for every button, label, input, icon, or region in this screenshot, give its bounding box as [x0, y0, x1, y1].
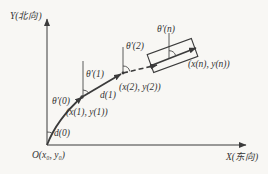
angle-arc-thetan — [169, 51, 176, 56]
theta0-label: θ′(0) — [52, 96, 70, 107]
d0-label: d(0) — [54, 128, 70, 139]
point-marker-p2 — [122, 72, 125, 75]
origin-label: O(x₀, y₀) — [32, 150, 65, 161]
y-axis-label: Y(北向) — [10, 11, 42, 22]
theta2-label: θ′(2) — [126, 41, 144, 52]
point-marker-p1 — [80, 95, 83, 98]
d1-label: d(1) — [100, 90, 116, 101]
theta1-label: θ′(1) — [86, 69, 104, 80]
diagram-canvas: Y(北向) X(东向) O(x₀, y₀) θ′(0) θ′(1) θ′(2) … — [0, 0, 268, 174]
angle-arc-theta0 — [47, 132, 52, 133]
thetan-label: θ′(n) — [157, 24, 175, 35]
pn-coordinate-label: (x(n), y(n)) — [188, 59, 230, 70]
p2-coordinate-label: (x(2), y(2)) — [119, 82, 161, 93]
dead-reckoning-diagram: Y(北向) X(东向) O(x₀, y₀) θ′(0) θ′(1) θ′(2) … — [0, 0, 268, 174]
x-axis-label: X(东向) — [225, 151, 258, 163]
p1-coordinate-label: (x(1), y(1)) — [66, 107, 108, 118]
angle-arc-theta2 — [123, 66, 130, 71]
